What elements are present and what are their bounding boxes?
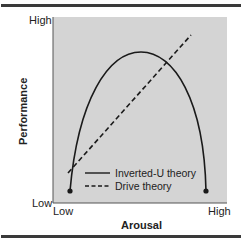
x-tick-low: Low xyxy=(53,205,73,217)
legend-label-inverted-u: Inverted-U theory xyxy=(115,167,196,179)
x-axis-title: Arousal xyxy=(121,219,162,231)
y-tick-high: High xyxy=(29,14,52,26)
bottom-rule xyxy=(1,235,241,238)
x-tick-high: High xyxy=(208,205,231,217)
curve-end-marker xyxy=(203,188,208,193)
curve-start-marker xyxy=(67,188,72,193)
legend-label-drive: Drive theory xyxy=(115,180,172,192)
y-axis-title: Performance xyxy=(17,79,29,145)
y-tick-low: Low xyxy=(32,197,52,209)
